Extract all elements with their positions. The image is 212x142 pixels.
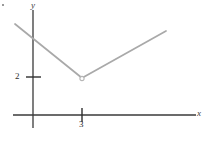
- y-tick-label-2: 2: [15, 72, 20, 81]
- vertex-open-circle-marker: [80, 76, 84, 80]
- v-graph-curve: [15, 24, 166, 78]
- coordinate-plot: [0, 0, 212, 142]
- y-axis-label: y: [31, 1, 35, 10]
- x-tick-label-3: 3: [79, 120, 84, 129]
- x-axis-label: x: [197, 109, 201, 118]
- graph-figure: y x 2 3: [0, 0, 212, 142]
